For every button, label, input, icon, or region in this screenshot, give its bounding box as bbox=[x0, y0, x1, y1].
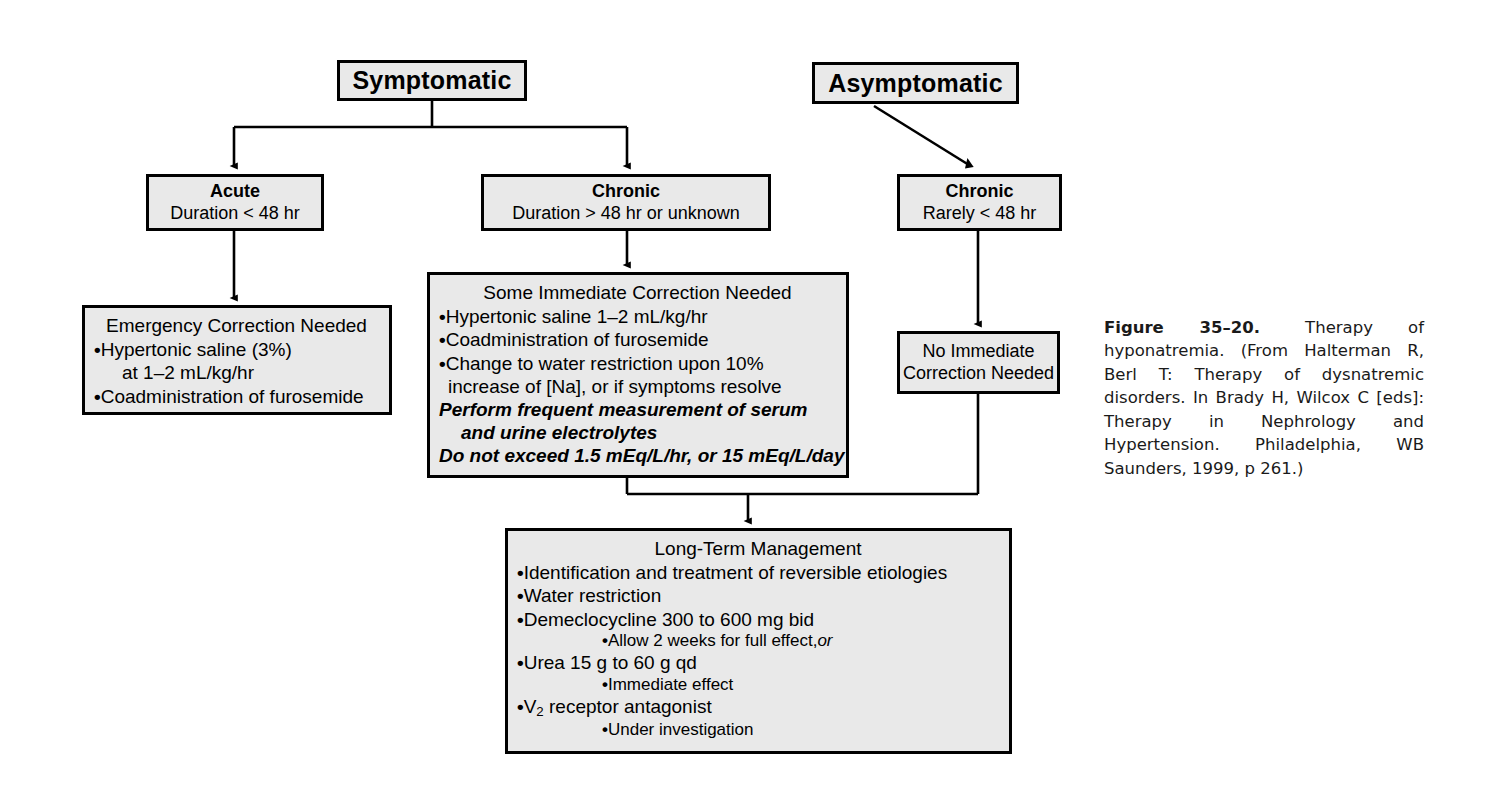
bullet-icon: • bbox=[517, 585, 524, 606]
bullet-icon: • bbox=[439, 329, 446, 350]
no-immediate-correction-line2: Correction Needed bbox=[903, 363, 1054, 384]
long-term-management-item-subscript: 2 bbox=[536, 704, 543, 719]
long-term-management-item-text: Urea 15 g to 60 g qd bbox=[524, 652, 697, 673]
long-term-management-subitem: •Immediate effect bbox=[517, 675, 999, 696]
connector-asymptomatic-chronic bbox=[874, 106, 969, 165]
long-term-management-subitem-or: or bbox=[817, 631, 832, 650]
some-immediate-correction-item: increase of [Na], or if symptoms resolve bbox=[439, 375, 836, 398]
bullet-icon: • bbox=[94, 339, 101, 360]
some-immediate-correction-emphasis: Do not exceed 1.5 mEq/L/hr, or 15 mEq/L/… bbox=[439, 444, 836, 467]
long-term-management-item: •V2 receptor antagonist bbox=[517, 695, 999, 720]
node-some-immediate-correction[interactable]: Some Immediate Correction Needed •Hypert… bbox=[427, 272, 849, 478]
node-chronic-asymptomatic-subtitle: Rarely < 48 hr bbox=[923, 203, 1037, 224]
bullet-icon: • bbox=[439, 306, 446, 327]
some-immediate-correction-emphasis: and urine electrolytes bbox=[439, 421, 836, 444]
long-term-management-item-suffix: receptor antagonist bbox=[544, 696, 712, 717]
node-acute[interactable]: Acute Duration < 48 hr bbox=[146, 174, 324, 231]
bullet-icon: • bbox=[517, 562, 524, 583]
emergency-correction-item-text: Hypertonic saline (3%) bbox=[101, 339, 292, 360]
node-symptomatic-label: Symptomatic bbox=[352, 66, 511, 95]
long-term-management-item-text: Water restriction bbox=[524, 585, 662, 606]
long-term-management-subitem-text: Allow 2 weeks for full effect, bbox=[608, 631, 817, 650]
long-term-management-item-text: Identification and treatment of reversib… bbox=[524, 562, 948, 583]
some-immediate-correction-item: •Change to water restriction upon 10% bbox=[439, 352, 836, 375]
emergency-correction-item: at 1–2 mL/kg/hr bbox=[94, 361, 379, 384]
figure-caption-label: Figure 35–20. bbox=[1104, 318, 1260, 337]
figure-root: Symptomatic Asymptomatic Acute Duration … bbox=[0, 0, 1493, 792]
long-term-management-subitem: •Allow 2 weeks for full effect,or bbox=[517, 631, 999, 652]
bullet-icon: • bbox=[517, 652, 524, 673]
some-immediate-correction-item-text: increase of [Na], or if symptoms resolve bbox=[448, 376, 782, 397]
long-term-management-heading: Long-Term Management bbox=[517, 537, 999, 560]
node-chronic-symptomatic-title: Chronic bbox=[592, 181, 660, 202]
some-immediate-correction-emphasis: Perform frequent measurement of serum bbox=[439, 398, 836, 421]
figure-caption-text: Therapy of hyponatremia. (From Halterman… bbox=[1104, 318, 1424, 478]
some-immediate-correction-item-text: Coadministration of furosemide bbox=[446, 329, 709, 350]
node-chronic-symptomatic-subtitle: Duration > 48 hr or unknown bbox=[512, 203, 740, 224]
bullet-icon: • bbox=[517, 609, 524, 630]
bullet-icon: • bbox=[94, 386, 101, 407]
node-acute-title: Acute bbox=[210, 181, 260, 202]
node-asymptomatic[interactable]: Asymptomatic bbox=[812, 62, 1019, 104]
node-acute-subtitle: Duration < 48 hr bbox=[170, 203, 300, 224]
long-term-management-item-prefix: V bbox=[524, 696, 537, 717]
node-asymptomatic-label: Asymptomatic bbox=[828, 69, 1003, 98]
emergency-correction-heading: Emergency Correction Needed bbox=[94, 314, 379, 337]
connector-symptomatic-split bbox=[234, 101, 627, 166]
node-no-immediate-correction[interactable]: No Immediate Correction Needed bbox=[897, 331, 1060, 394]
node-chronic-asymptomatic[interactable]: Chronic Rarely < 48 hr bbox=[897, 174, 1062, 231]
emergency-correction-item-text: Coadministration of furosemide bbox=[101, 386, 364, 407]
emergency-correction-item: •Hypertonic saline (3%) bbox=[94, 338, 379, 361]
bullet-icon: • bbox=[439, 353, 446, 374]
some-immediate-correction-item-text: Change to water restriction upon 10% bbox=[446, 353, 764, 374]
emergency-correction-item: •Coadministration of furosemide bbox=[94, 385, 379, 408]
some-immediate-correction-item-text: Hypertonic saline 1–2 mL/kg/hr bbox=[446, 306, 708, 327]
figure-caption: Figure 35–20. Therapy of hyponatremia. (… bbox=[1104, 316, 1424, 480]
some-immediate-correction-item: •Hypertonic saline 1–2 mL/kg/hr bbox=[439, 305, 836, 328]
node-chronic-symptomatic[interactable]: Chronic Duration > 48 hr or unknown bbox=[481, 174, 771, 231]
no-immediate-correction-line1: No Immediate bbox=[922, 341, 1034, 362]
long-term-management-item: •Urea 15 g to 60 g qd bbox=[517, 651, 999, 674]
bullet-icon: • bbox=[517, 696, 524, 717]
long-term-management-subitem-text: Immediate effect bbox=[608, 675, 733, 694]
some-immediate-correction-heading: Some Immediate Correction Needed bbox=[439, 281, 836, 304]
node-long-term-management[interactable]: Long-Term Management •Identification and… bbox=[505, 528, 1012, 754]
emergency-correction-item-text: at 1–2 mL/kg/hr bbox=[122, 362, 254, 383]
long-term-management-subitem-text: Under investigation bbox=[608, 720, 754, 739]
some-immediate-correction-item: •Coadministration of furosemide bbox=[439, 328, 836, 351]
long-term-management-item-text: Demeclocycline 300 to 600 mg bid bbox=[524, 609, 814, 630]
long-term-management-subitem: •Under investigation bbox=[517, 720, 999, 741]
node-symptomatic[interactable]: Symptomatic bbox=[337, 60, 527, 101]
long-term-management-item: •Demeclocycline 300 to 600 mg bid bbox=[517, 608, 999, 631]
node-chronic-asymptomatic-title: Chronic bbox=[945, 181, 1013, 202]
long-term-management-item: •Water restriction bbox=[517, 584, 999, 607]
node-emergency-correction[interactable]: Emergency Correction Needed •Hypertonic … bbox=[82, 305, 392, 415]
long-term-management-item: •Identification and treatment of reversi… bbox=[517, 561, 999, 584]
